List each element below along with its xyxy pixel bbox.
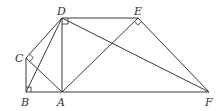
geometry-diagram: D E C B A F <box>0 0 223 111</box>
segment-DC <box>26 18 62 58</box>
segment-DF <box>62 18 209 92</box>
label-B: B <box>20 96 29 109</box>
label-C: C <box>15 52 24 65</box>
label-F: F <box>204 96 213 109</box>
segment-DB <box>26 18 62 92</box>
point-labels: D E C B A F <box>15 5 213 109</box>
segments <box>26 18 209 92</box>
label-A: A <box>56 96 65 109</box>
label-E: E <box>133 5 142 18</box>
right-angle-mark-E <box>134 22 141 26</box>
segment-EF <box>138 18 209 92</box>
right-angle-mark-C <box>30 54 34 61</box>
label-D: D <box>56 5 66 18</box>
segment-AE <box>62 18 138 92</box>
